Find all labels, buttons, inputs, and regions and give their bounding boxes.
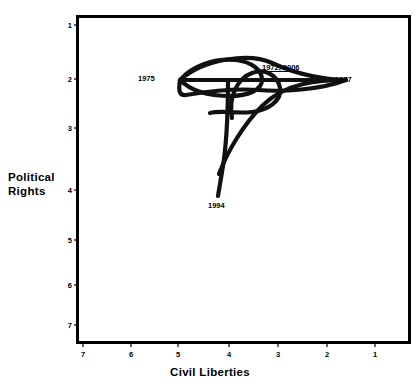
y-tick-label: 3 (58, 124, 72, 133)
x-tick-label: 7 (76, 350, 90, 359)
y-tick-label: 1 (58, 21, 72, 30)
y-tick-label: 7 (58, 321, 72, 330)
data-point-label: 1977 (335, 75, 352, 84)
chart-figure: Political Rights Civil Liberties 1234567… (0, 0, 420, 386)
x-tick-label: 3 (271, 350, 285, 359)
data-point-label: 1972, 2006 (262, 63, 300, 72)
x-tick-label: 2 (320, 350, 334, 359)
y-tick-label: 5 (58, 236, 72, 245)
x-tick-label: 4 (222, 350, 236, 359)
y-tick-label: 4 (58, 186, 72, 195)
x-axis-title: Civil Liberties (0, 365, 420, 379)
y-tick-label: 6 (58, 281, 72, 290)
y-axis-title-line1: Political (8, 170, 74, 184)
data-point-label: 1994 (208, 201, 225, 210)
plot-frame (78, 17, 410, 343)
x-tick-label: 6 (124, 350, 138, 359)
x-tick-label: 5 (171, 350, 185, 359)
y-tick-label: 2 (58, 75, 72, 84)
x-tick-label: 1 (368, 350, 382, 359)
data-point-label: 1975 (138, 74, 155, 83)
